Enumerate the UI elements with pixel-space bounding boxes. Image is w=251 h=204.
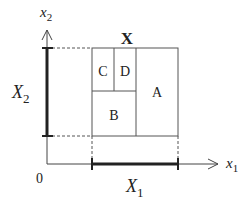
region-d-label: D <box>120 64 130 79</box>
projection-lines <box>47 48 178 164</box>
region-b-label: B <box>109 108 118 123</box>
set-x-title: X <box>121 29 134 48</box>
y-axis-label: x2 <box>39 4 52 23</box>
y-interval-label: X2 <box>11 82 30 106</box>
origin-label: 0 <box>36 171 43 186</box>
x-axis-label: x1 <box>225 155 238 174</box>
region-c-label: C <box>98 64 107 79</box>
diagram-canvas: X C D B A x2 x1 0 X2 X1 <box>0 0 251 204</box>
region-a-label: A <box>152 85 163 100</box>
y-interval-bar <box>42 48 53 136</box>
x-interval-label: X1 <box>125 176 144 200</box>
x-interval-bar <box>92 158 178 170</box>
set-x-box <box>92 48 178 136</box>
